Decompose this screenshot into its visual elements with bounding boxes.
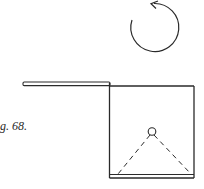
figure-diagram — [0, 0, 204, 189]
plank — [23, 82, 110, 86]
dashed-lines — [118, 135, 191, 174]
figure-caption: g. 68. — [0, 119, 27, 134]
pivot-ball — [148, 128, 156, 136]
rotation-arrow-icon — [131, 1, 179, 51]
